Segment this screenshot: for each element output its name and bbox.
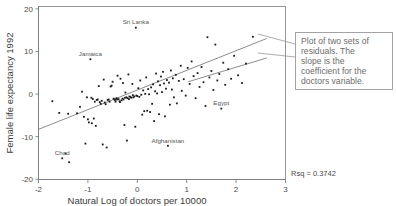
data-point — [85, 143, 87, 145]
data-point — [130, 97, 132, 99]
x-tick-label-1: 1 — [184, 185, 189, 194]
data-point — [211, 70, 213, 72]
data-point — [146, 110, 148, 112]
data-point — [197, 72, 199, 74]
data-point — [220, 108, 222, 110]
x-tick-label-3: 3 — [283, 185, 288, 194]
data-point — [102, 144, 104, 146]
data-point — [92, 98, 94, 100]
data-point — [88, 122, 90, 124]
data-point — [142, 90, 144, 92]
data-point — [95, 125, 97, 127]
rsq-label: Rsq = 0.3742 — [291, 169, 336, 178]
data-point — [162, 71, 164, 73]
y-tick-label-neg10: -10 — [21, 133, 33, 142]
y-axis-title: Female life expectancy 1992 — [4, 33, 15, 154]
data-point — [105, 103, 107, 105]
data-point — [212, 89, 214, 91]
data-point — [183, 78, 185, 80]
data-point — [103, 79, 105, 81]
data-point — [138, 96, 140, 98]
data-point — [205, 105, 207, 107]
data-point — [170, 70, 172, 72]
data-point — [171, 89, 173, 91]
y-tick-label-0: 0 — [29, 90, 34, 99]
data-point — [139, 80, 141, 82]
data-point — [145, 77, 147, 79]
data-point — [230, 78, 232, 80]
callout-line-1: Plot of two sets of — [301, 36, 369, 46]
data-point — [155, 73, 157, 75]
x-tick-label-0: 0 — [135, 185, 140, 194]
data-point — [169, 104, 171, 106]
data-point — [135, 27, 137, 29]
data-point — [120, 78, 122, 80]
callout-line-2: residuals. The — [301, 46, 355, 56]
data-point — [168, 82, 170, 84]
data-point — [150, 86, 152, 88]
data-point — [224, 84, 226, 86]
y-tick-label-neg20: -20 — [21, 175, 33, 184]
point-label-chad: Chad — [55, 149, 70, 156]
data-point — [76, 112, 78, 114]
data-point — [159, 84, 161, 86]
data-point — [119, 101, 121, 103]
data-point — [136, 95, 138, 97]
data-point — [157, 80, 159, 82]
data-point — [98, 85, 100, 87]
data-point — [104, 102, 106, 104]
data-point — [176, 102, 178, 104]
callout-line-5: doctors variable. — [301, 76, 364, 86]
data-point — [140, 94, 142, 96]
data-point — [161, 91, 163, 93]
data-point — [97, 99, 99, 101]
point-label-egypt: Egypt — [213, 99, 229, 106]
data-point — [115, 101, 117, 103]
data-point — [214, 44, 216, 46]
data-point — [94, 101, 96, 103]
point-label-sri-lanka: Sri Lanka — [123, 18, 150, 25]
data-point — [191, 61, 193, 63]
chart-canvas: 20 10 0 -10 -20 -2 -1 0 1 2 3 Female lif… — [0, 0, 396, 206]
data-point — [121, 99, 123, 101]
data-point — [137, 87, 139, 89]
data-point — [172, 77, 174, 79]
data-point — [189, 83, 191, 85]
data-point — [118, 98, 120, 100]
data-point — [185, 95, 187, 97]
x-tick-label-neg1: -1 — [84, 185, 92, 194]
data-point — [143, 110, 145, 112]
data-point — [166, 79, 168, 81]
data-point — [241, 82, 243, 84]
data-point — [87, 118, 89, 120]
data-point — [101, 100, 103, 102]
data-point — [123, 99, 125, 101]
data-point — [237, 74, 239, 76]
data-point — [152, 83, 154, 85]
data-point — [163, 83, 165, 85]
data-point — [108, 99, 110, 101]
data-point — [86, 96, 88, 98]
data-point — [99, 101, 101, 103]
data-point — [133, 96, 135, 98]
data-point — [187, 67, 189, 69]
data-point — [227, 68, 229, 70]
data-point — [181, 90, 183, 92]
y-tick-label-20: 20 — [24, 5, 33, 14]
data-point — [178, 80, 180, 82]
data-point — [134, 126, 136, 128]
x-tick-label-2: 2 — [234, 185, 239, 194]
data-point — [111, 85, 113, 87]
data-point — [128, 74, 130, 76]
data-point — [149, 111, 151, 113]
data-point — [154, 90, 156, 92]
data-point — [151, 103, 153, 105]
data-point — [91, 122, 93, 124]
data-point — [83, 116, 85, 118]
data-point — [180, 65, 182, 67]
data-point — [109, 101, 111, 103]
data-point — [233, 55, 235, 57]
data-point — [160, 76, 162, 78]
data-point — [106, 147, 108, 149]
scatter-plot-figure: 20 10 0 -10 -20 -2 -1 0 1 2 3 Female lif… — [0, 0, 396, 206]
